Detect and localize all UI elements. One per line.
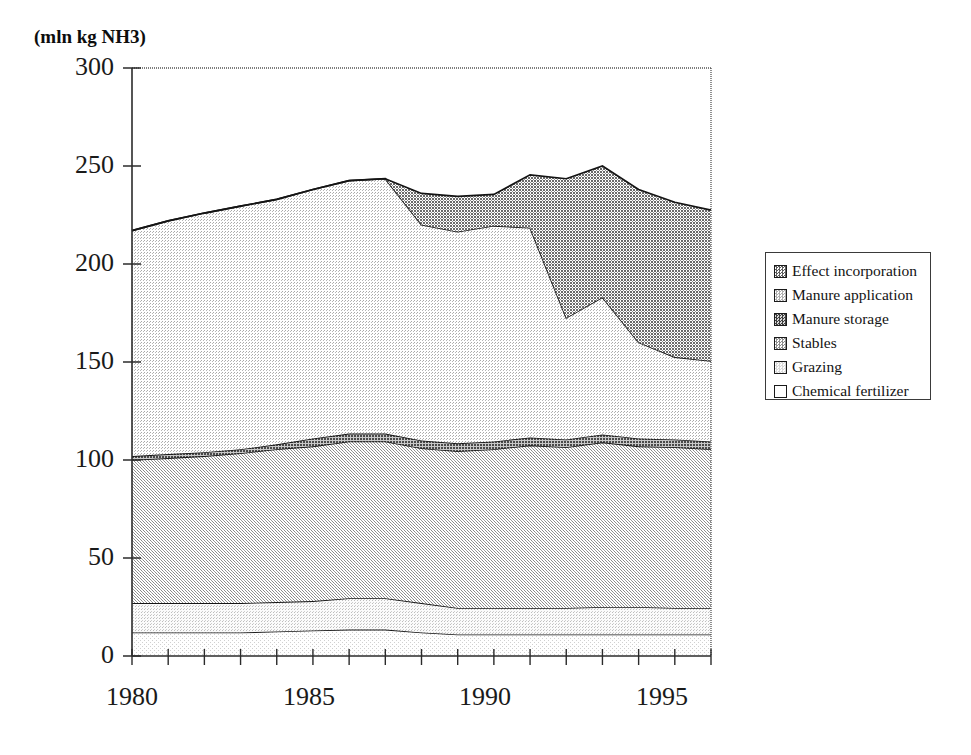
stacked-area-bands (132, 166, 711, 656)
legend-label-manure-storage: Manure storage (792, 311, 889, 327)
chart-container: (mln kg NH3) 300 250 200 150 100 50 0 19… (0, 0, 971, 755)
legend-item-effect-incorporation[interactable]: Effect incorporation (774, 259, 924, 283)
legend-label-manure-application: Manure application (792, 287, 913, 303)
legend-swatch-grazing (774, 361, 787, 374)
legend-item-chemical-fertilizer[interactable]: Chemical fertilizer (774, 379, 924, 403)
legend-item-manure-storage[interactable]: Manure storage (774, 307, 924, 331)
legend-label-grazing: Grazing (792, 359, 842, 375)
legend-swatch-effect-incorporation (774, 265, 787, 278)
area-band-stables (132, 441, 711, 608)
legend-label-effect-incorporation: Effect incorporation (792, 263, 917, 279)
legend-swatch-chemical-fertilizer (774, 385, 787, 398)
legend-label-chemical-fertilizer: Chemical fertilizer (792, 383, 909, 399)
legend-label-stables: Stables (792, 335, 837, 351)
legend-item-manure-application[interactable]: Manure application (774, 283, 924, 307)
legend-swatch-stables (774, 337, 787, 350)
legend-item-grazing[interactable]: Grazing (774, 355, 924, 379)
legend-swatch-manure-storage (774, 313, 787, 326)
legend: Effect incorporation Manure application … (765, 252, 931, 400)
legend-item-stables[interactable]: Stables (774, 331, 924, 355)
legend-swatch-manure-application (774, 289, 787, 302)
